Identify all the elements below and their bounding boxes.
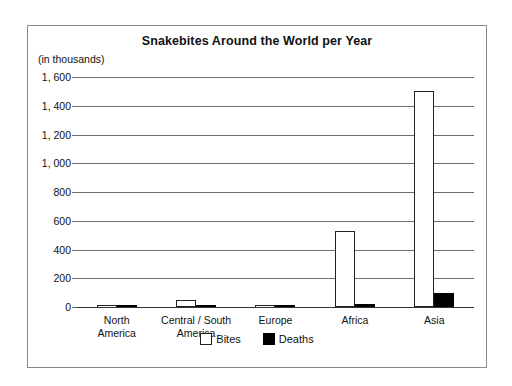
bar-group <box>315 77 394 307</box>
bar-bites <box>335 231 355 307</box>
chart-title: Snakebites Around the World per Year <box>28 34 486 48</box>
legend-label-deaths: Deaths <box>279 333 314 345</box>
axis-baseline <box>77 307 474 308</box>
bar-deaths <box>434 293 454 307</box>
white-square-icon <box>200 333 212 345</box>
bar-deaths <box>275 305 295 307</box>
bar-group <box>156 77 235 307</box>
y-axis-tick-label: 1, 200 <box>42 129 71 141</box>
y-axis-tick-label: 200 <box>53 272 71 284</box>
black-square-icon <box>263 333 275 345</box>
y-axis-tick-label: 600 <box>53 215 71 227</box>
y-axis-tick-label: 1, 600 <box>42 71 71 83</box>
y-axis-tick-label: 400 <box>53 244 71 256</box>
x-axis-category-label: Africa <box>341 314 368 327</box>
bar-bites <box>414 91 434 307</box>
bar-deaths <box>355 304 375 307</box>
bar-deaths <box>196 305 216 307</box>
bar-bites <box>176 300 196 307</box>
x-axis-category-label: Asia <box>424 314 444 327</box>
chart-page: Snakebites Around the World per Year (in… <box>0 0 512 386</box>
legend-item-deaths: Deaths <box>263 333 314 345</box>
legend-item-bites: Bites <box>200 333 240 345</box>
chart-frame: Snakebites Around the World per Year (in… <box>27 25 487 368</box>
y-axis-units-caption: (in thousands) <box>38 53 105 65</box>
x-axis-category-label: Europe <box>259 314 293 327</box>
y-axis-tick-label: 800 <box>53 186 71 198</box>
legend-label-bites: Bites <box>216 333 240 345</box>
bar-group <box>395 77 474 307</box>
plot-area: 1, 6001, 4001, 2001, 0008006004002000Nor… <box>77 77 474 307</box>
y-axis-tick-label: 1, 000 <box>42 157 71 169</box>
bar-deaths <box>117 305 137 307</box>
y-axis-tick-mark <box>72 307 77 308</box>
bar-group <box>77 77 156 307</box>
bar-group <box>236 77 315 307</box>
bar-bites <box>97 305 117 307</box>
bar-bites <box>255 305 275 307</box>
y-axis-tick-label: 0 <box>65 301 71 313</box>
y-axis-tick-label: 1, 400 <box>42 100 71 112</box>
chart-legend: Bites Deaths <box>28 333 486 345</box>
